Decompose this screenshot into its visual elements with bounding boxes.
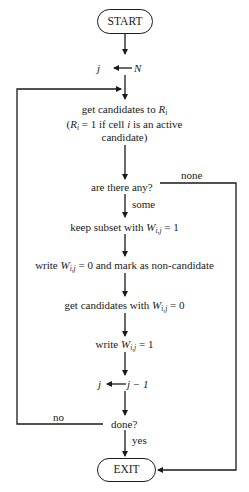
decrement-rhs-wrap: j − 1 xyxy=(127,378,148,391)
exit-label: EXIT xyxy=(113,463,139,475)
var-r: R xyxy=(70,118,77,130)
text: = 0 and mark as non-candidate xyxy=(76,259,214,271)
get-candidates-line2: (Ri = 1 if cell i is an active xyxy=(0,118,249,131)
label-none: none xyxy=(181,169,202,182)
text: is an active xyxy=(130,118,182,130)
label-no: no xyxy=(53,411,64,424)
label-yes: yes xyxy=(132,434,147,447)
text: = 0 xyxy=(167,299,184,311)
text: write xyxy=(96,338,121,350)
start-label: START xyxy=(108,15,143,27)
write-one-step: write Wi,j = 1 xyxy=(0,338,249,351)
init-rhs-wrap: N xyxy=(134,62,141,75)
keep-subset-step: keep subset with Wi,j = 1 xyxy=(0,221,249,234)
get-candidates-line1: get candidates to Ri xyxy=(0,103,249,116)
decrement-lhs: j xyxy=(98,378,101,390)
text: get candidates to xyxy=(82,103,159,115)
exit-terminal: EXIT xyxy=(97,458,156,482)
decrement-rhs: j − 1 xyxy=(127,378,148,390)
init-rhs: N xyxy=(134,62,141,74)
decrement-lhs-wrap: j xyxy=(98,378,101,391)
text: = 1 xyxy=(162,221,179,233)
label-some: some xyxy=(132,198,155,211)
init-step: j xyxy=(97,62,100,75)
text: write xyxy=(35,259,60,271)
var-w: W xyxy=(152,299,161,311)
get-candidates-line3: candidate) xyxy=(0,131,249,144)
var-w: W xyxy=(121,338,130,350)
decision-done: done? xyxy=(111,418,137,431)
var-w: W xyxy=(60,259,69,271)
sub-i: i xyxy=(165,108,167,117)
text: = 1 if cell xyxy=(79,118,127,130)
text: = 1 xyxy=(136,338,153,350)
text: keep subset with xyxy=(70,221,146,233)
write-zero-step: write Wi,j = 0 and mark as non-candidate xyxy=(0,259,249,272)
decision-any: are there any? xyxy=(91,181,153,194)
get-zero-step: get candidates with Wi,j = 0 xyxy=(0,299,249,312)
init-lhs: j xyxy=(97,62,100,74)
start-terminal: START xyxy=(97,9,153,34)
text: get candidates with xyxy=(64,299,152,311)
